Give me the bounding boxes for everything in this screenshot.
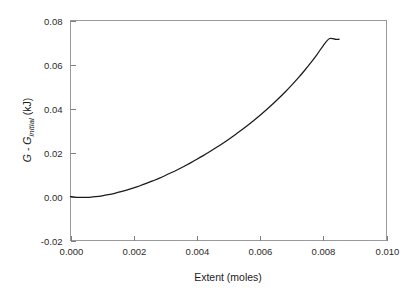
y-axis-title: G - Ginitial (kJ)	[21, 98, 36, 162]
y-axis-tick-labels: -0.020.000.020.040.060.08	[41, 16, 63, 247]
x-axis-tick-labels: 0.0000.0020.0040.0060.0080.010	[60, 246, 400, 257]
ylabel-symbol-g-initial: G	[21, 136, 33, 144]
ylabel-symbol-g: G	[21, 154, 33, 162]
y-tick-label: 0.06	[44, 60, 63, 71]
y-tick-label: 0.08	[44, 16, 63, 27]
ylabel-units: (kJ)	[21, 98, 33, 118]
data-series-line	[71, 38, 340, 197]
y-tick-label: 0.02	[44, 148, 63, 159]
chart-figure: -0.020.000.020.040.060.08 0.0000.0020.00…	[0, 0, 420, 293]
x-tick-label: 0.004	[186, 246, 210, 257]
x-axis-title: Extent (moles)	[194, 271, 262, 283]
y-tick-label: 0.00	[44, 192, 63, 203]
y-tick-label: 0.04	[44, 104, 63, 115]
ylabel-subscript: initial	[27, 118, 36, 136]
x-tick-label: 0.006	[249, 246, 273, 257]
x-axis-ticks	[72, 236, 388, 241]
x-tick-label: 0.000	[60, 246, 84, 257]
ylabel-operator: -	[21, 145, 33, 154]
plot-area-border	[71, 21, 387, 241]
x-tick-label: 0.008	[312, 246, 336, 257]
x-tick-label: 0.010	[376, 246, 400, 257]
x-tick-label: 0.002	[123, 246, 147, 257]
y-axis-ticks	[71, 22, 76, 242]
chart-canvas: -0.020.000.020.040.060.08 0.0000.0020.00…	[0, 0, 420, 293]
